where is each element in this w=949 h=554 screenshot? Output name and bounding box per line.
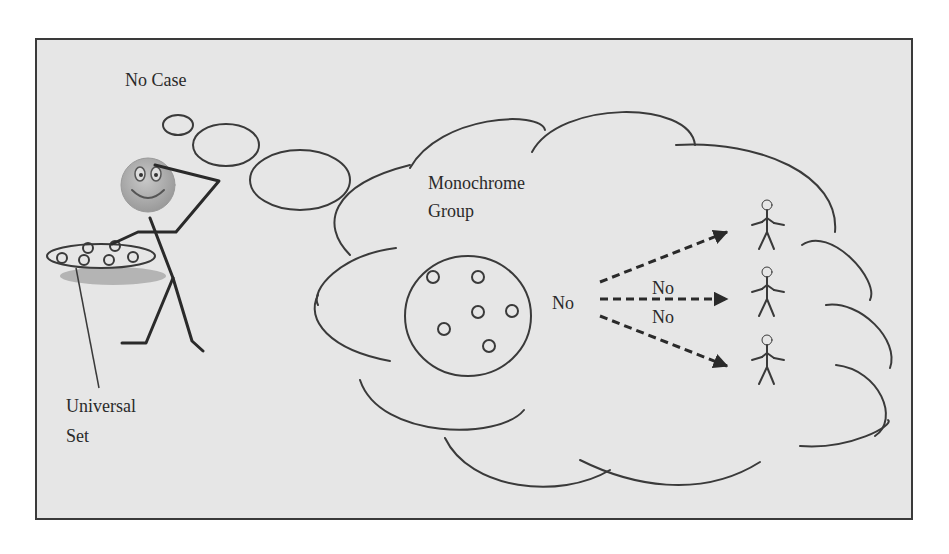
person-icon: [752, 267, 784, 316]
group-label-line2: Group: [428, 197, 474, 225]
arrow-label-lower: No: [652, 303, 674, 331]
thought-bubbles: [163, 115, 350, 210]
universal-set-label-line1: Universal: [66, 392, 136, 420]
universal-set-plate: [47, 241, 166, 388]
universal-set-pointer: [76, 268, 99, 388]
group-members: [427, 271, 518, 352]
person-icon: [752, 200, 784, 249]
source-no-label: No: [552, 289, 574, 317]
monochrome-group-circle: [405, 256, 531, 376]
person-icon: [752, 335, 784, 384]
group-label-line1: Monochrome: [428, 169, 525, 197]
universal-set-label-line2: Set: [66, 422, 89, 450]
smiley-face-icon: [121, 158, 175, 212]
target-people: [752, 200, 784, 384]
diagram-title: No Case: [125, 66, 187, 94]
arrow-label-middle: No: [652, 274, 674, 302]
